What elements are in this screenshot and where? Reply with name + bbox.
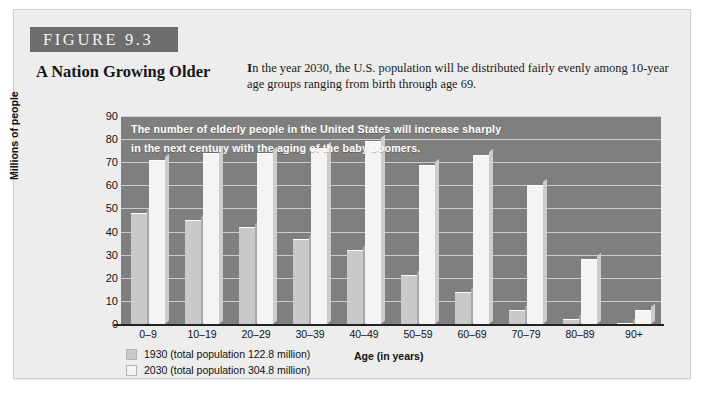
- x-tick-label: 10–19: [187, 328, 216, 340]
- caption-text: n the year 2030, the U.S. population wil…: [247, 61, 669, 91]
- y-tick-label: 60: [84, 179, 118, 191]
- x-tick-label: 90+: [625, 328, 643, 340]
- y-tick-label: 0: [84, 318, 118, 330]
- bar-1930-60–69: [455, 292, 471, 324]
- x-tick-label: 30–39: [295, 328, 324, 340]
- legend-label-1930: 1930 (total population 122.8 million): [144, 348, 310, 360]
- legend-swatch-1930: [126, 349, 137, 360]
- x-axis-title: Age (in years): [354, 350, 423, 362]
- bar-1930-90+: [617, 323, 633, 325]
- chart-annotation: The number of elderly people in the Unit…: [131, 120, 631, 158]
- bar-1930-80–89: [563, 319, 579, 324]
- chart-plot-area: The number of elderly people in the Unit…: [121, 116, 661, 324]
- bar-2030-90+: [635, 310, 651, 324]
- x-axis-line: [114, 324, 664, 326]
- bar-2030-70–79: [527, 185, 543, 324]
- bar-2030-80–89: [581, 259, 597, 324]
- legend-item-1930: 1930 (total population 122.8 million): [126, 346, 310, 362]
- y-tick-label: 10: [84, 295, 118, 307]
- y-tick-label: 40: [84, 226, 118, 238]
- x-tick-label: 50–59: [403, 328, 432, 340]
- bar-1930-0–9: [131, 213, 147, 324]
- chart-legend: 1930 (total population 122.8 million)203…: [126, 346, 310, 378]
- x-axis-ticks: 0–910–1920–2930–3940–4950–5960–6970–7980…: [121, 328, 661, 344]
- bar-1930-40–49: [347, 250, 363, 324]
- figure-banner-label: FIGURE 9.3: [30, 30, 153, 50]
- figure-title: A Nation Growing Older: [36, 62, 210, 82]
- figure-caption: In the year 2030, the U.S. population wi…: [247, 60, 677, 92]
- y-axis-title: Millions of people: [8, 91, 20, 180]
- bar-1930-70–79: [509, 310, 525, 324]
- legend-item-2030: 2030 (total population 304.8 million): [126, 362, 310, 378]
- y-axis-ticks: 0102030405060708090: [80, 116, 118, 324]
- y-tick-label: 50: [84, 202, 118, 214]
- figure-card: FIGURE 9.3 A Nation Growing Older In the…: [13, 9, 691, 379]
- bar-1930-20–29: [239, 227, 255, 324]
- y-tick-label: 20: [84, 272, 118, 284]
- figure-banner: FIGURE 9.3: [30, 27, 178, 52]
- bar-2030-50–59: [419, 165, 435, 324]
- y-tick-label: 70: [84, 156, 118, 168]
- x-tick-label: 20–29: [241, 328, 270, 340]
- y-tick-label: 90: [84, 110, 118, 122]
- y-tick-label: 30: [84, 249, 118, 261]
- x-tick-label: 40–49: [349, 328, 378, 340]
- bar-2030-20–29: [257, 153, 273, 324]
- chart-annotation-line-1: The number of elderly people in the Unit…: [131, 120, 631, 139]
- bar-2030-10–19: [203, 153, 219, 324]
- legend-swatch-2030: [126, 365, 137, 376]
- bar-1930-10–19: [185, 220, 201, 324]
- bar-2030-30–39: [311, 148, 327, 324]
- x-tick-label: 0–9: [139, 328, 157, 340]
- x-tick-label: 70–79: [511, 328, 540, 340]
- x-tick-label: 60–69: [457, 328, 486, 340]
- y-tick-label: 80: [84, 133, 118, 145]
- bar-1930-50–59: [401, 275, 417, 324]
- bar-2030-40–49: [365, 141, 381, 324]
- bar-2030-60–69: [473, 155, 489, 324]
- legend-label-2030: 2030 (total population 304.8 million): [144, 364, 310, 376]
- bar-2030-0–9: [149, 160, 165, 324]
- bar-1930-30–39: [293, 239, 309, 325]
- chart-annotation-line-2: in the next century with the aging of th…: [131, 139, 631, 158]
- x-tick-label: 80–89: [565, 328, 594, 340]
